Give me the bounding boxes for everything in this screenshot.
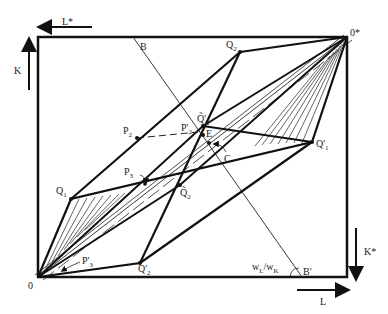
- label-Q2-prime: Q'2: [138, 263, 151, 277]
- label-K-star: K*: [364, 246, 376, 257]
- label-L: L: [320, 296, 326, 307]
- label-Q1-prime: Q'1: [316, 138, 329, 152]
- label-L-star: L*: [62, 16, 73, 27]
- label-P3-prime: P'3: [82, 255, 93, 269]
- label-K: K: [14, 65, 22, 76]
- label-E: E: [206, 128, 212, 139]
- label-B: B: [140, 41, 147, 52]
- label-Q1: Q1: [56, 185, 67, 199]
- label-P3: P3: [124, 166, 134, 180]
- contract-curves: [35, 35, 352, 280]
- label-origin-O-star: 0*: [350, 27, 360, 38]
- angle-arc: [290, 268, 299, 277]
- label-wage-ratio: wL/wK: [252, 261, 279, 275]
- label-origin-O: 0: [28, 280, 33, 291]
- label-P2: P2: [123, 125, 133, 139]
- edgeworth-box-diagram: L* K L K* 0 0* B B' Q1 Q'1 Q2 Q'2 Q̃2 Q̃…: [0, 0, 388, 314]
- label-C: C: [224, 153, 231, 164]
- label-Q2-tilde: Q̃2: [180, 186, 191, 201]
- label-B-prime: B': [303, 266, 312, 277]
- label-Q2: Q2: [226, 39, 237, 53]
